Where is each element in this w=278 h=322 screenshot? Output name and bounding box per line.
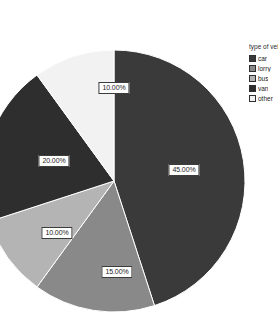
chart-legend: type of vehicl carlorrybusvanother <box>249 43 278 104</box>
legend-item[interactable]: car <box>249 54 278 63</box>
legend-item[interactable]: other <box>249 94 278 103</box>
legend-color-swatch-icon <box>249 95 256 102</box>
legend-item[interactable]: lorry <box>249 64 278 73</box>
legend-title: type of vehicl <box>249 43 278 51</box>
legend-item-label: bus <box>258 75 268 82</box>
legend-item[interactable]: van <box>249 84 278 93</box>
legend-item[interactable]: bus <box>249 74 278 83</box>
legend-item-label: car <box>258 55 267 62</box>
legend-color-swatch-icon <box>249 75 256 82</box>
legend-item-label: other <box>258 95 273 102</box>
pie-slice-label: 10.00% <box>41 227 72 239</box>
pie-chart-figure: 45.00%15.00%10.00%20.00%10.00% type of v… <box>0 0 278 322</box>
pie-slice-label: 10.00% <box>98 82 129 94</box>
pie-slice-label: 15.00% <box>101 266 132 278</box>
pie-slice-label: 20.00% <box>38 155 69 167</box>
legend-color-swatch-icon <box>249 65 256 72</box>
legend-color-swatch-icon <box>249 55 256 62</box>
legend-color-swatch-icon <box>249 85 256 92</box>
legend-item-label: van <box>258 85 268 92</box>
legend-item-label: lorry <box>258 65 271 72</box>
pie-slice-label: 45.00% <box>168 164 199 176</box>
legend-item-list: carlorrybusvanother <box>249 54 278 103</box>
